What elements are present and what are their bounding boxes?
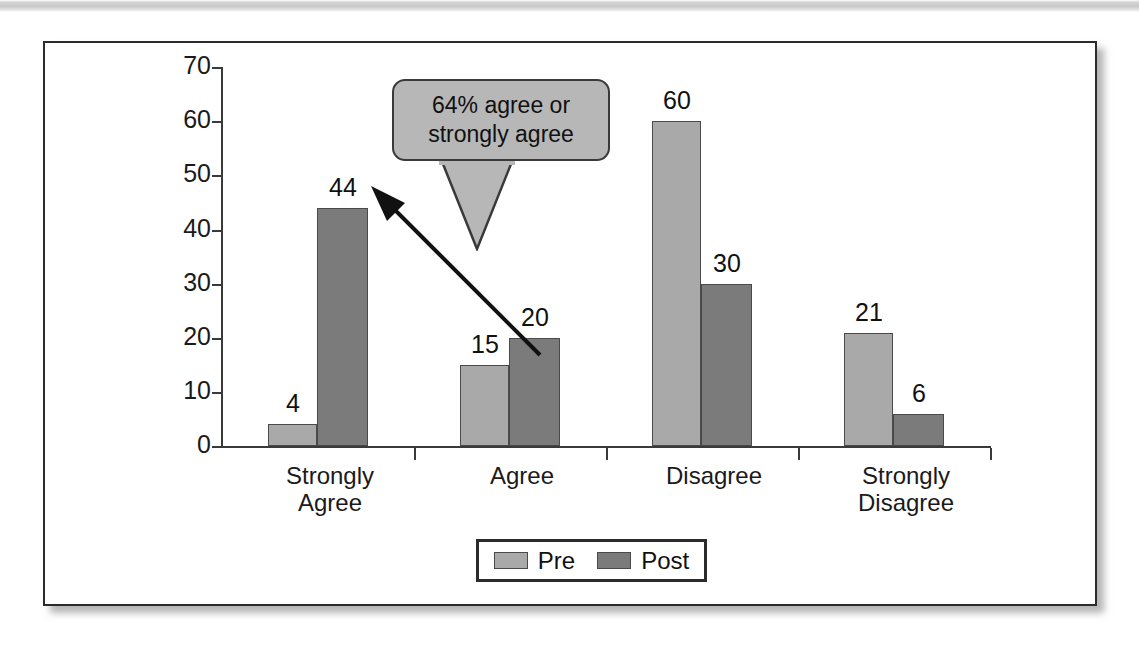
y-tick-label-70: 70 <box>151 53 211 78</box>
bar-value-pre-strongly-disagree: 21 <box>834 300 904 325</box>
x-category-label-agree: Agree <box>435 463 609 490</box>
y-tick-label-10: 10 <box>151 378 211 403</box>
x-category-label-disagree: Disagree <box>627 463 801 490</box>
bar-pre-agree[interactable] <box>460 365 509 446</box>
y-tick-label-0: 0 <box>151 432 211 457</box>
bar-value-post-strongly-disagree: 6 <box>883 381 955 406</box>
callout-bubble: 64% agree or strongly agree <box>392 79 610 161</box>
x-category-label-strongly-agree: StronglyAgree <box>243 463 417 517</box>
y-tick-label-40: 40 <box>151 216 211 241</box>
bar-value-post-disagree: 30 <box>691 251 763 276</box>
x-category-label-strongly-disagree: StronglyDisagree <box>819 463 993 517</box>
bar-pre-disagree[interactable] <box>652 121 701 446</box>
cat-line1: Strongly <box>862 462 950 489</box>
figure-frame: 70 60 50 40 30 20 10 0 4 44 StronglyAgre… <box>43 41 1097 606</box>
page-scan-band <box>0 0 1139 12</box>
y-tick-label-30: 30 <box>151 270 211 295</box>
bar-value-pre-disagree: 60 <box>642 88 712 113</box>
y-tick-10 <box>212 392 221 394</box>
y-tick-0 <box>212 446 221 448</box>
legend-item-pre[interactable]: Pre <box>494 549 575 573</box>
y-tick-70 <box>212 67 221 69</box>
y-tick-label-20: 20 <box>151 324 211 349</box>
legend-item-post[interactable]: Post <box>597 549 689 573</box>
bar-pre-strongly-agree[interactable] <box>268 424 317 446</box>
y-tick-20 <box>212 338 221 340</box>
callout-line-1: 64% agree or <box>432 91 570 120</box>
legend-label-pre: Pre <box>538 549 575 573</box>
x-tick-3 <box>798 448 800 460</box>
cat-line1: Disagree <box>666 462 762 489</box>
x-tick-2 <box>606 448 608 460</box>
y-axis-line <box>221 67 223 448</box>
x-tick-4 <box>990 448 992 460</box>
legend-swatch-post-icon <box>597 552 631 569</box>
cat-line1: Strongly <box>286 462 374 489</box>
cat-line1: Agree <box>490 462 554 489</box>
y-tick-label-50: 50 <box>151 161 211 186</box>
x-tick-1 <box>414 448 416 460</box>
y-tick-label-60: 60 <box>151 107 211 132</box>
y-tick-60 <box>212 121 221 123</box>
callout-line-2: strongly agree <box>428 120 574 149</box>
cat-line2: Agree <box>298 489 362 516</box>
cat-line2: Disagree <box>858 489 954 516</box>
chart-plot-area: 70 60 50 40 30 20 10 0 4 44 StronglyAgre… <box>45 43 1099 608</box>
bar-post-strongly-agree[interactable] <box>317 208 368 446</box>
bar-post-strongly-disagree[interactable] <box>893 414 944 446</box>
legend-swatch-pre-icon <box>494 552 528 569</box>
y-tick-50 <box>212 175 221 177</box>
y-tick-40 <box>212 230 221 232</box>
callout-tail-icon <box>437 159 517 251</box>
bar-post-disagree[interactable] <box>701 284 752 446</box>
y-tick-30 <box>212 284 221 286</box>
legend-label-post: Post <box>641 549 689 573</box>
chart-legend: Pre Post <box>476 539 707 582</box>
